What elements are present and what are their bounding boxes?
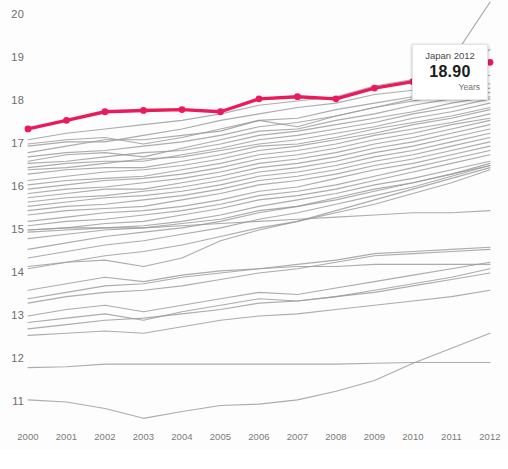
japan-data-point[interactable] bbox=[333, 95, 340, 102]
comparison-line bbox=[28, 168, 490, 267]
comparison-line bbox=[28, 333, 490, 418]
y-axis-tick-label: 11 bbox=[2, 395, 24, 407]
callout-title: Japan 2012 bbox=[420, 50, 480, 61]
y-axis-tick-label: 20 bbox=[2, 8, 24, 20]
y-axis-tick-label: 12 bbox=[2, 352, 24, 364]
x-axis-tick-label: 2003 bbox=[124, 431, 164, 442]
japan-data-point[interactable] bbox=[294, 93, 301, 100]
x-axis-tick-label: 2011 bbox=[432, 431, 472, 442]
x-axis-tick-label: 2009 bbox=[355, 431, 395, 442]
y-axis-tick-label: 16 bbox=[2, 180, 24, 192]
comparison-line bbox=[28, 269, 490, 323]
chart-container: 11121314151617181920 2000200120022003200… bbox=[0, 0, 508, 469]
x-axis-tick-label: 2000 bbox=[8, 431, 48, 442]
x-axis-tick-label: 2012 bbox=[470, 431, 508, 442]
japan-data-point[interactable] bbox=[256, 95, 263, 102]
x-axis-tick-label: 2002 bbox=[85, 431, 125, 442]
japan-data-point[interactable] bbox=[217, 108, 224, 115]
japan-data-point[interactable] bbox=[25, 126, 32, 133]
callout-unit: Years bbox=[420, 82, 480, 92]
japan-data-point[interactable] bbox=[63, 117, 70, 124]
japan-data-point[interactable] bbox=[179, 106, 186, 113]
x-axis-tick-label: 2001 bbox=[47, 431, 87, 442]
comparison-line bbox=[28, 362, 490, 367]
y-axis-tick-label: 18 bbox=[2, 94, 24, 106]
comparison-line bbox=[28, 273, 490, 329]
comparison-line bbox=[28, 114, 490, 185]
japan-data-point[interactable] bbox=[140, 107, 147, 114]
japan-data-point[interactable] bbox=[371, 85, 378, 92]
y-axis-tick-label: 17 bbox=[2, 137, 24, 149]
figure-caption-strip: 図 1-12 65 歳時点での平均余命（男性） bbox=[0, 450, 508, 469]
x-axis-tick-label: 2006 bbox=[239, 431, 279, 442]
comparison-line bbox=[28, 262, 490, 316]
x-axis-tick-label: 2004 bbox=[162, 431, 202, 442]
x-axis-tick-label: 2008 bbox=[316, 431, 356, 442]
comparison-line bbox=[28, 290, 490, 335]
y-axis-tick-label: 19 bbox=[2, 51, 24, 63]
x-axis-tick-label: 2010 bbox=[393, 431, 433, 442]
x-axis-tick-label: 2007 bbox=[278, 431, 318, 442]
y-axis-tick-label: 15 bbox=[2, 223, 24, 235]
y-axis-tick-label: 14 bbox=[2, 266, 24, 278]
y-axis-tick-label: 13 bbox=[2, 309, 24, 321]
callout-value: 18.90 bbox=[420, 62, 480, 81]
japan-value-callout: Japan 2012 18.90 Years bbox=[412, 44, 488, 100]
x-axis-tick-label: 2005 bbox=[201, 431, 241, 442]
japan-data-point[interactable] bbox=[102, 108, 109, 115]
